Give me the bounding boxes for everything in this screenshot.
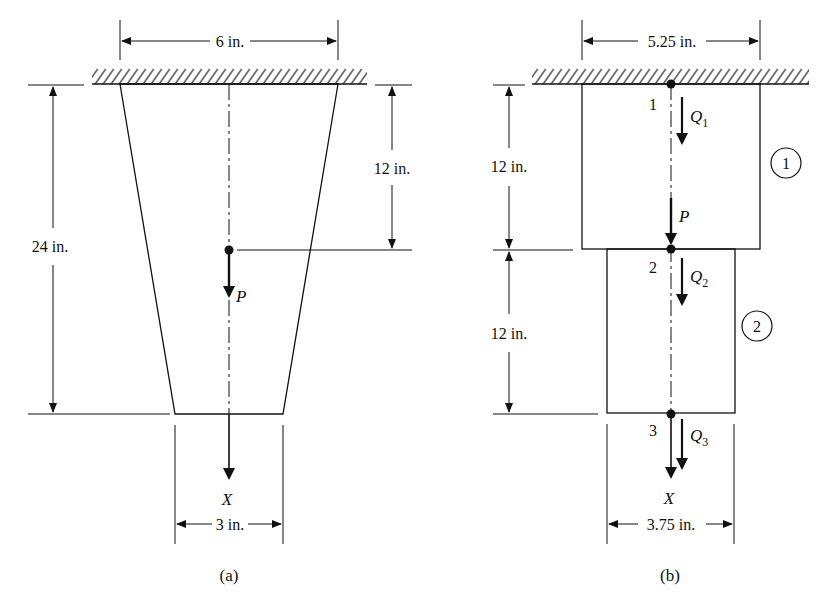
- caption-b: (b): [660, 566, 680, 585]
- figure-b: 5.25 in. 12 in. 12 in. 1 Q1 P: [491, 20, 809, 585]
- label-3in: 3 in.: [216, 516, 244, 533]
- label-12in-element-1: 12 in.: [491, 158, 527, 175]
- element-1-number: 1: [782, 155, 790, 172]
- label-12in-a: 12 in.: [374, 160, 410, 177]
- label-3-75in: 3.75 in.: [647, 516, 695, 533]
- node-3: 3 Q3: [649, 410, 708, 469]
- element-1-marker: 1: [771, 148, 801, 178]
- node-1-number: 1: [649, 96, 657, 113]
- label-x-b: X: [663, 489, 675, 508]
- label-24in: 24 in.: [32, 238, 68, 255]
- x-axis-a: X: [221, 414, 233, 509]
- dimension-total-length: 24 in.: [28, 85, 170, 414]
- caption-a: (a): [220, 566, 239, 585]
- fixed-support-a: [92, 69, 367, 84]
- node-2-number: 2: [649, 259, 657, 276]
- node-3-number: 3: [649, 422, 657, 439]
- load-p-b: P: [671, 198, 689, 243]
- figure-a: 6 in. 24 in. 12 in. P X: [28, 20, 412, 585]
- node-1: 1 Q1: [649, 80, 708, 144]
- q1-label: Q1: [690, 107, 708, 130]
- element-2-number: 2: [753, 318, 761, 335]
- x-axis-b: X: [663, 414, 675, 508]
- label-p-b: P: [678, 207, 689, 226]
- label-12in-element-2: 12 in.: [491, 325, 527, 342]
- figure-stage: 6 in. 24 in. 12 in. P X: [0, 0, 822, 603]
- q2-label: Q2: [690, 267, 708, 290]
- label-x-a: X: [221, 490, 233, 509]
- label-6in: 6 in.: [216, 33, 244, 50]
- dimension-top-width-b: 5.25 in.: [582, 20, 760, 60]
- element-2-marker: 2: [742, 311, 772, 341]
- q3-label: Q3: [690, 426, 708, 449]
- dimension-top-width-a: 6 in.: [120, 20, 338, 60]
- label-5-25in: 5.25 in.: [648, 33, 696, 50]
- load-p-a: P: [225, 246, 247, 307]
- diagram-canvas: 6 in. 24 in. 12 in. P X: [0, 0, 822, 603]
- label-p-a: P: [235, 287, 246, 306]
- node-2: 2 Q2: [649, 245, 708, 305]
